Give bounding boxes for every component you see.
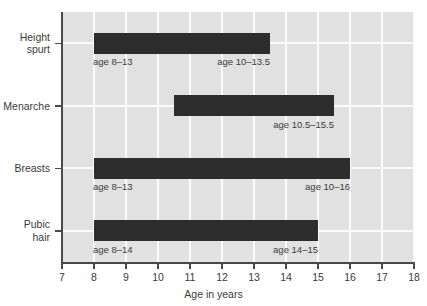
x-axis-tick: [349, 263, 351, 269]
y-axis-tick: [55, 43, 62, 45]
x-axis-tick-label: 7: [47, 271, 77, 283]
x-axis-tick: [189, 263, 191, 269]
x-axis-tick: [61, 263, 63, 269]
x-axis-title: Age in years: [0, 288, 427, 300]
x-axis-tick-label: 10: [143, 271, 173, 283]
x-axis-tick: [381, 263, 383, 269]
bar: [94, 33, 270, 54]
bar-end-annotation: age 10–16: [305, 181, 350, 192]
bar-start-annotation: age 8–13: [93, 56, 133, 67]
x-axis-tick-label: 8: [79, 271, 109, 283]
y-axis-label-menarche: Menarche: [0, 100, 50, 113]
plot-area: age 8–13age 10–13.5age 10.5–15.5age 8–13…: [62, 12, 414, 262]
chart-figure: age 8–13age 10–13.5age 10.5–15.5age 8–13…: [0, 0, 427, 306]
y-axis-label-pubic-hair: Pubic hair: [0, 218, 50, 243]
x-axis-spine: [61, 262, 415, 264]
bar-start-annotation: age 8–14: [93, 244, 133, 255]
x-axis-tick: [253, 263, 255, 269]
y-axis-label-height-spurt: Height spurt: [0, 31, 50, 56]
x-axis-tick-label: 18: [399, 271, 427, 283]
gridline-vertical: [349, 12, 351, 262]
bar: [94, 158, 350, 179]
x-axis-tick-label: 16: [335, 271, 365, 283]
gridline-vertical: [413, 12, 415, 262]
y-axis-label-breasts: Breasts: [0, 162, 50, 175]
x-axis-tick: [317, 263, 319, 269]
x-axis-tick-label: 13: [239, 271, 269, 283]
bar: [94, 220, 318, 241]
x-axis-tick-label: 14: [271, 271, 301, 283]
x-axis-tick: [413, 263, 415, 269]
bar: [174, 95, 334, 116]
y-axis-tick: [55, 168, 62, 170]
x-axis-tick-label: 15: [303, 271, 333, 283]
bar-end-annotation: age 10–13.5: [217, 56, 270, 67]
y-axis-spine: [61, 12, 63, 263]
y-axis-tick: [55, 105, 62, 107]
bar-end-annotation: age 14–15: [273, 244, 318, 255]
x-axis-tick: [285, 263, 287, 269]
x-axis-tick-label: 17: [367, 271, 397, 283]
x-axis-tick-label: 11: [175, 271, 205, 283]
x-axis-tick-label: 12: [207, 271, 237, 283]
bar-end-annotation: age 10.5–15.5: [273, 119, 334, 130]
y-axis-tick: [55, 230, 62, 232]
gridline-vertical: [381, 12, 383, 262]
x-axis-tick: [221, 263, 223, 269]
x-axis-tick: [157, 263, 159, 269]
x-axis-tick: [125, 263, 127, 269]
x-axis-tick: [93, 263, 95, 269]
x-axis-tick-label: 9: [111, 271, 141, 283]
bar-start-annotation: age 8–13: [93, 181, 133, 192]
